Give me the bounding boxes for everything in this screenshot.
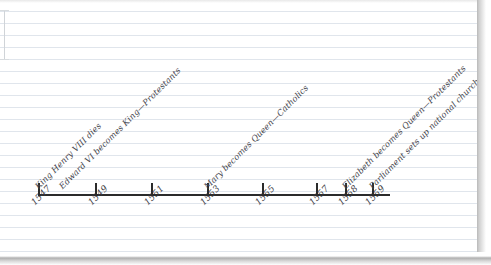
- timeline-event-label: Parliament sets up national church: [367, 76, 482, 191]
- scan-edge-bottom: [0, 252, 491, 265]
- timeline-event-label: Mary becomes Queen—Catholics: [202, 83, 310, 191]
- notebook-page: 15471549155115531555155715581559 King He…: [0, 0, 491, 265]
- timeline-event-label: Edward VI becomes King—Protestants: [57, 65, 183, 191]
- scan-edge-right: [477, 0, 491, 265]
- timeline-event-label: Elizabeth becomes Queen—Protestants: [340, 63, 468, 191]
- scan-edge-top: [0, 0, 491, 3]
- timeline-chart: 15471549155115531555155715581559 King He…: [0, 0, 491, 265]
